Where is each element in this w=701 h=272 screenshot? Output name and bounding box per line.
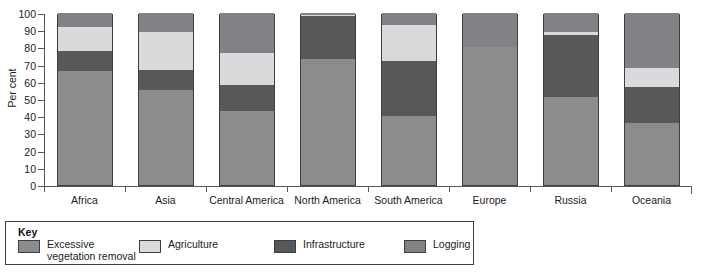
stacked-bar[interactable]	[624, 14, 680, 186]
bar-segment[interactable]	[301, 15, 355, 17]
bar-group	[219, 14, 275, 186]
x-axis-tick	[44, 186, 45, 192]
x-axis-tick	[206, 186, 207, 192]
legend-title: Key	[18, 226, 37, 238]
legend-label: Infrastructure	[303, 239, 365, 251]
bar-segment[interactable]	[544, 32, 598, 35]
x-axis-tick	[611, 186, 612, 192]
legend: Key Excessive vegetation removalAgricult…	[5, 221, 474, 265]
bar-segment[interactable]	[625, 123, 679, 185]
x-axis-end-cap	[691, 186, 692, 194]
bar-segment[interactable]	[544, 97, 598, 185]
bar-segment[interactable]	[301, 16, 355, 59]
x-axis-tick	[449, 186, 450, 192]
stacked-bar[interactable]	[381, 14, 437, 186]
y-axis-tick-label: 10	[4, 164, 36, 174]
legend-label: Logging	[433, 239, 470, 251]
bar-segment[interactable]	[301, 13, 355, 15]
y-axis-tick	[38, 66, 44, 67]
legend-item[interactable]: Excessive vegetation removal	[18, 239, 136, 262]
bar-segment[interactable]	[382, 116, 436, 185]
y-axis-tick-label: 50	[4, 95, 36, 105]
stacked-bar[interactable]	[219, 14, 275, 186]
bar-segment[interactable]	[139, 70, 193, 91]
bar-segment[interactable]	[625, 13, 679, 68]
y-axis-tick-label: 30	[4, 129, 36, 139]
stacked-bar[interactable]	[300, 14, 356, 186]
bar-segment[interactable]	[139, 13, 193, 32]
y-axis-tick-label: 90	[4, 26, 36, 36]
stacked-bar[interactable]	[138, 14, 194, 186]
stacked-bar[interactable]	[462, 14, 518, 186]
bar-segment[interactable]	[463, 47, 517, 185]
bar-segment[interactable]	[382, 61, 436, 116]
x-axis-tick	[125, 186, 126, 192]
legend-swatch	[404, 240, 426, 253]
x-axis-tick	[368, 186, 369, 192]
stacked-bar[interactable]	[57, 14, 113, 186]
bar-segment[interactable]	[58, 51, 112, 72]
x-axis-category-label: Africa	[44, 194, 125, 206]
bar-segment[interactable]	[58, 27, 112, 51]
bar-segment[interactable]	[220, 53, 274, 86]
y-axis-tick	[38, 152, 44, 153]
bar-segment[interactable]	[220, 85, 274, 111]
bar-group	[543, 14, 599, 186]
bar-segment[interactable]	[625, 68, 679, 87]
bar-segment[interactable]	[220, 111, 274, 185]
x-axis-category-label: Asia	[125, 194, 206, 206]
bar-group	[57, 14, 113, 186]
y-axis-tick-label: 40	[4, 112, 36, 122]
bar-segment[interactable]	[544, 35, 598, 97]
bar-group	[300, 14, 356, 186]
y-axis-tick	[38, 31, 44, 32]
y-axis-tick-label: 60	[4, 78, 36, 88]
bar-segment[interactable]	[625, 87, 679, 123]
x-axis-category-label: South America	[368, 194, 449, 206]
bar-segment[interactable]	[58, 71, 112, 185]
x-axis-tick	[287, 186, 288, 192]
y-axis-tick	[38, 100, 44, 101]
x-axis-category-label: Oceania	[611, 194, 692, 206]
bar-segment[interactable]	[139, 32, 193, 70]
legend-label: Agriculture	[168, 239, 218, 251]
legend-swatch	[18, 240, 40, 253]
legend-swatch	[274, 240, 296, 253]
bar-segment[interactable]	[220, 13, 274, 53]
y-axis-tick-label: 100	[4, 9, 36, 19]
y-axis-tick	[38, 14, 44, 15]
y-axis-tick	[38, 169, 44, 170]
bar-group	[138, 14, 194, 186]
bar-segment[interactable]	[139, 90, 193, 185]
bar-segment[interactable]	[463, 13, 517, 47]
y-axis-tick	[38, 134, 44, 135]
y-axis-tick-label: 70	[4, 61, 36, 71]
y-axis-tick-labels: 0102030405060708090100	[0, 0, 36, 200]
x-axis-category-label: Central America	[206, 194, 287, 206]
bar-group	[381, 14, 437, 186]
x-axis-tick	[530, 186, 531, 192]
legend-label: Excessive vegetation removal	[47, 239, 136, 262]
legend-item[interactable]: Agriculture	[139, 239, 218, 253]
y-axis-tick-label: 20	[4, 147, 36, 157]
y-axis-tick-label: 0	[4, 181, 36, 191]
bar-segment[interactable]	[301, 59, 355, 185]
bar-segment[interactable]	[58, 13, 112, 27]
x-axis-category-label: Russia	[530, 194, 611, 206]
bar-group	[624, 14, 680, 186]
x-axis-category-label: North America	[287, 194, 368, 206]
legend-swatch	[139, 240, 161, 253]
bar-group	[462, 14, 518, 186]
y-axis-tick	[38, 48, 44, 49]
stacked-bar[interactable]	[543, 14, 599, 186]
legend-item[interactable]: Infrastructure	[274, 239, 365, 253]
y-axis-tick	[38, 117, 44, 118]
stacked-bar-chart: Per cent 0102030405060708090100 AfricaAs…	[0, 0, 701, 214]
y-axis-tick	[38, 83, 44, 84]
x-axis-category-label: Europe	[449, 194, 530, 206]
legend-item[interactable]: Logging	[404, 239, 470, 253]
bar-segment[interactable]	[544, 13, 598, 32]
y-axis-tick-label: 80	[4, 43, 36, 53]
bar-segment[interactable]	[382, 13, 436, 25]
bar-segment[interactable]	[382, 25, 436, 61]
